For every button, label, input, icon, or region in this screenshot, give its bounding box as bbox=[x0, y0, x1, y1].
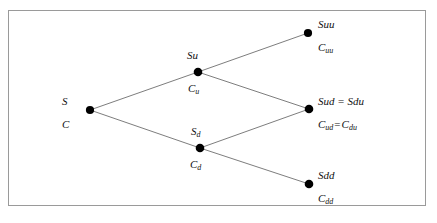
label-down-asset-sub: d bbox=[197, 130, 201, 139]
label-updown-option: Cud=Cdu bbox=[318, 119, 357, 130]
edge-root-up bbox=[90, 72, 198, 110]
node-up-down bbox=[305, 105, 314, 114]
edge-down-updown bbox=[200, 109, 309, 148]
label-updown-option-base2: C bbox=[342, 118, 349, 130]
label-updown-asset-text: Sud = Sdu bbox=[318, 95, 364, 107]
label-upup-option: Cuu bbox=[318, 42, 333, 53]
node-down-down bbox=[305, 180, 314, 189]
label-updown-option-sub: ud bbox=[325, 123, 333, 132]
label-updown-equals: = bbox=[333, 118, 341, 130]
node-down bbox=[196, 144, 205, 153]
label-down-option-sub: d bbox=[197, 163, 201, 172]
label-downdown-asset-text: Sdd bbox=[318, 169, 335, 181]
label-up-asset: Su bbox=[187, 50, 198, 61]
label-updown-option-sub2: du bbox=[349, 123, 357, 132]
label-downdown-option-sub: dd bbox=[325, 197, 333, 206]
label-up-option: Cu bbox=[188, 83, 199, 94]
label-root-option: C bbox=[62, 119, 69, 130]
binomial-tree-figure: S C Su Cu Sd Cd Suu Cuu Sud = Sdu Cud=Cd… bbox=[0, 0, 437, 223]
label-root-asset-text: S bbox=[62, 95, 68, 107]
label-down-option: Cd bbox=[190, 159, 201, 170]
label-up-option-sub: u bbox=[195, 87, 199, 96]
node-root bbox=[86, 106, 94, 114]
label-upup-asset: Suu bbox=[318, 19, 335, 30]
node-up-up bbox=[304, 29, 312, 37]
tree-edges-and-nodes bbox=[0, 0, 437, 223]
label-upup-asset-text: Suu bbox=[318, 18, 335, 30]
edge-up-updown bbox=[198, 72, 309, 109]
edge-down-downdown bbox=[200, 148, 309, 184]
label-downdown-asset: Sdd bbox=[318, 170, 335, 181]
label-downdown-option: Cdd bbox=[318, 193, 333, 204]
label-upup-option-sub: uu bbox=[325, 46, 333, 55]
label-root-asset: S bbox=[62, 96, 68, 107]
label-updown-asset: Sud = Sdu bbox=[318, 96, 364, 107]
edge-up-upup bbox=[198, 33, 308, 72]
label-down-asset: Sd bbox=[191, 126, 201, 137]
label-up-asset-text: Su bbox=[187, 49, 198, 61]
node-up bbox=[194, 68, 203, 77]
edge-root-down bbox=[90, 110, 200, 148]
label-down-asset-base: S bbox=[191, 125, 197, 137]
label-root-option-text: C bbox=[62, 118, 69, 130]
